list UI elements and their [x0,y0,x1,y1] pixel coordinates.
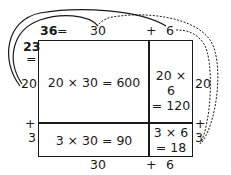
right-part1: 20 [195,77,211,91]
cell-top-right: 20 × 6 = 120 [150,42,192,122]
top-part1: 30 [90,24,106,38]
left-equals: = [26,52,36,66]
cell-top-right-line2: = 120 [152,98,190,113]
cell-bottom-right-line1: 3 × 6 [154,125,188,140]
cell-bottom-left: 3 × 30 = 90 [40,124,148,156]
left-plus: + [25,117,35,131]
cell-bottom-right: 3 × 6 = 18 [150,124,192,156]
left-part2: 3 [28,131,36,145]
bottom-plus: + [146,158,156,172]
left-part1: 20 [21,77,37,91]
cell-top-right-line1: 20 × 6 [150,68,192,98]
top-part2: 6 [166,24,174,38]
top-total: 36 [40,24,57,38]
cell-bottom-left-text: 3 × 30 = 90 [56,133,133,148]
top-equals: = [57,24,67,38]
cell-top-left: 20 × 30 = 600 [40,42,148,122]
bottom-part1: 30 [90,158,106,172]
right-plus: + [195,117,205,131]
cell-top-left-text: 20 × 30 = 600 [48,75,141,90]
cell-bottom-right-line2: = 18 [156,140,186,155]
bottom-part2: 6 [166,158,174,172]
right-part2: 3 [195,131,203,145]
top-plus: + [146,24,156,38]
